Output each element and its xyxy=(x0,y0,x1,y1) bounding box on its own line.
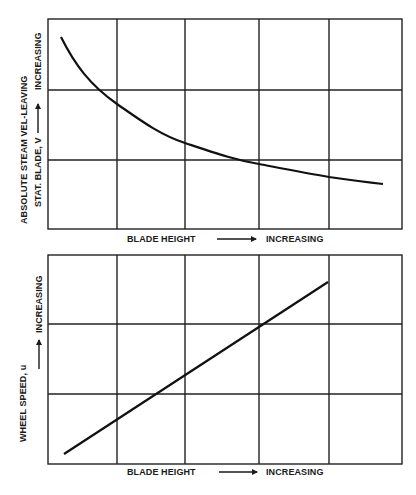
bottom-ylabel-increasing: INCREASING xyxy=(34,275,44,333)
top-ylabel-line2: STAT. BLADE, V xyxy=(33,137,43,207)
top-chart-frame xyxy=(48,19,402,229)
bottom-xlabel-increasing: INCREASING xyxy=(266,467,324,477)
top-xlabel-increasing: INCREASING xyxy=(266,234,324,244)
wheel-speed-line xyxy=(64,282,328,454)
top-chart-grid xyxy=(48,19,402,229)
bottom-ylabel-line1: WHEEL SPEED, u xyxy=(18,365,28,442)
top-chart: ABSOLUTE STEAM VEL-LEAVING STAT. BLADE, … xyxy=(19,19,402,244)
top-ylabel-line1: ABSOLUTE STEAM VEL-LEAVING xyxy=(19,76,29,224)
bottom-chart-grid xyxy=(48,255,402,464)
velocity-curve xyxy=(61,37,383,184)
top-xlabel: BLADE HEIGHT xyxy=(127,234,196,244)
bottom-chart: WHEEL SPEED, u INCREASING BLADE HEIGHT I… xyxy=(18,255,402,477)
top-ylabel-increasing: INCREASING xyxy=(33,32,43,90)
diagram-canvas: ABSOLUTE STEAM VEL-LEAVING STAT. BLADE, … xyxy=(0,0,416,495)
bottom-xlabel: BLADE HEIGHT xyxy=(127,467,196,477)
bottom-chart-frame xyxy=(48,255,402,464)
